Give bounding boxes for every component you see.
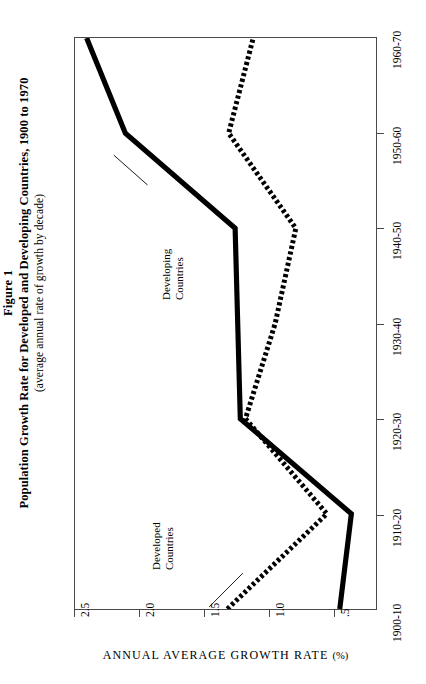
value-tick-label: 1.0	[274, 603, 286, 617]
value-axis-title-text: ANNUAL AVERAGE GROWTH RATE	[103, 648, 329, 662]
leader-line-developing	[114, 155, 148, 185]
value-tick-label: 1.5	[209, 603, 221, 617]
figure-number: Figure 1	[0, 0, 16, 586]
decade-tick	[377, 515, 384, 516]
value-tick-label: 2.5	[79, 603, 91, 617]
figure-page: Figure 1 Population Growth Rate for Deve…	[0, 0, 426, 684]
value-tick	[269, 610, 270, 617]
decade-tick	[377, 419, 384, 420]
series-line-developing	[87, 38, 352, 609]
decade-tick-label: 1900-10	[391, 604, 403, 642]
figure-subtitle: (average annual rate of growth by decade…	[32, 0, 47, 586]
decade-tick-label: 1920-30	[391, 413, 403, 451]
figure-title-block: Figure 1 Population Growth Rate for Deve…	[0, 0, 62, 586]
decade-tick	[377, 324, 384, 325]
series-line-developed	[227, 38, 326, 609]
annotation-developing-line2: Countries	[173, 249, 186, 300]
plot-area	[74, 37, 377, 610]
value-tick	[74, 610, 75, 617]
value-axis-unit: (%)	[332, 650, 348, 661]
chart-canvas	[75, 38, 376, 609]
annotation-developing: Developing Countries	[160, 249, 186, 300]
decade-tick-label: 1910-20	[391, 508, 403, 546]
annotation-developing-line1: Developing	[160, 249, 172, 300]
value-tick	[204, 610, 205, 617]
value-tick	[334, 610, 335, 617]
decade-tick-label: 1930-40	[391, 317, 403, 355]
value-axis-title: ANNUAL AVERAGE GROWTH RATE (%)	[74, 648, 377, 663]
decade-tick	[377, 133, 384, 134]
value-tick-label: 2.0	[144, 603, 156, 617]
decade-tick-label: 1940-50	[391, 222, 403, 260]
annotation-developed-line1: Developed	[150, 522, 162, 570]
decade-tick-label: 1950-60	[391, 126, 403, 164]
value-tick-label: .5	[339, 608, 351, 617]
annotation-developed: Developed Countries	[150, 522, 176, 570]
decade-tick-label: 1960-70	[391, 31, 403, 69]
page-title: Population Growth Rate for Developed and…	[16, 0, 32, 586]
annotation-developed-line2: Countries	[163, 522, 176, 570]
decade-tick	[377, 228, 384, 229]
value-tick	[139, 610, 140, 617]
